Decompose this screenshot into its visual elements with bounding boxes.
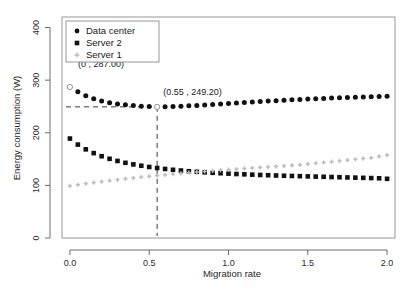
x-axis: 0.00.51.01.52.0 xyxy=(64,250,394,268)
data-point xyxy=(155,166,160,171)
data-point xyxy=(83,93,88,98)
data-point xyxy=(298,174,303,179)
x-axis-tick-label: 0.5 xyxy=(143,258,156,268)
data-point xyxy=(147,165,152,170)
data-point xyxy=(337,95,342,100)
data-point xyxy=(115,101,120,106)
data-point xyxy=(361,176,366,181)
data-point xyxy=(290,174,295,179)
data-point xyxy=(329,175,334,180)
data-point xyxy=(186,103,191,108)
data-point xyxy=(345,175,350,180)
data-point xyxy=(115,159,120,164)
data-point xyxy=(297,97,302,102)
data-point xyxy=(369,94,374,99)
energy-consumption-chart: 0.00.51.01.52.0 0100200300400 (0 , 287.0… xyxy=(0,0,416,290)
x-axis-tick-label: 2.0 xyxy=(381,258,394,268)
data-point xyxy=(282,173,287,178)
data-point xyxy=(163,104,168,109)
data-point xyxy=(369,176,374,181)
data-point xyxy=(274,173,279,178)
data-point xyxy=(131,162,136,167)
data-point xyxy=(250,172,255,177)
data-point xyxy=(202,102,207,107)
data-point xyxy=(194,103,199,108)
data-point xyxy=(385,94,390,99)
x-axis-tick-label: 1.0 xyxy=(222,258,235,268)
annotation-marker xyxy=(67,84,72,89)
data-point xyxy=(377,176,382,181)
legend-marker-square-icon xyxy=(75,41,80,46)
data-point xyxy=(337,175,342,180)
data-point xyxy=(361,94,366,99)
data-point xyxy=(123,161,128,166)
data-point xyxy=(76,142,81,147)
x-axis-tick-label: 1.5 xyxy=(302,258,315,268)
y-axis-title: Energy consumption (W) xyxy=(11,76,22,181)
x-axis-title: Migration rate xyxy=(203,268,261,279)
data-point xyxy=(131,103,136,108)
annotation-marker xyxy=(155,104,160,109)
data-point xyxy=(147,104,152,109)
legend-item-label: Server 2 xyxy=(86,37,122,48)
legend-item-label: Server 1 xyxy=(86,49,122,60)
x-axis-tick-label: 0.0 xyxy=(64,258,77,268)
series-data-center xyxy=(67,84,389,109)
data-point xyxy=(171,104,176,109)
data-point xyxy=(83,147,88,152)
chart-legend: Data centerServer 2Server 1 xyxy=(66,21,159,62)
data-point xyxy=(107,157,112,162)
data-point xyxy=(99,98,104,103)
reference-lines xyxy=(66,107,157,236)
data-point xyxy=(242,172,247,177)
y-axis-tick-label: 200 xyxy=(31,125,41,140)
legend-marker-circle-icon xyxy=(75,29,80,34)
data-point xyxy=(305,174,310,179)
data-point xyxy=(305,97,310,102)
data-point xyxy=(91,96,96,101)
y-axis-tick-label: 400 xyxy=(31,20,41,35)
data-point xyxy=(321,96,326,101)
data-point xyxy=(107,100,112,105)
data-point xyxy=(226,171,231,176)
data-point xyxy=(258,99,263,104)
data-point xyxy=(68,136,73,141)
data-series xyxy=(67,84,389,188)
data-point xyxy=(353,175,358,180)
series-server-2 xyxy=(68,136,390,181)
data-point xyxy=(218,101,223,106)
data-point xyxy=(289,97,294,102)
data-point xyxy=(226,101,231,106)
data-point xyxy=(139,104,144,109)
data-point xyxy=(266,99,271,104)
data-point xyxy=(139,163,144,168)
data-point xyxy=(163,167,168,172)
data-point xyxy=(282,98,287,103)
data-point xyxy=(385,177,390,182)
legend-item-label: Data center xyxy=(86,25,135,36)
data-point xyxy=(178,104,183,109)
point-annotations: (0 , 287.00)(0.55 , 249.20) xyxy=(67,59,221,109)
annotation-label: (0.55 , 249.20) xyxy=(163,87,222,97)
data-point xyxy=(345,95,350,100)
data-point xyxy=(258,173,263,178)
data-point xyxy=(171,168,176,173)
data-point xyxy=(210,102,215,107)
data-point xyxy=(329,96,334,101)
data-point xyxy=(274,98,279,103)
data-point xyxy=(123,102,128,107)
chart-canvas: 0.00.51.01.52.0 0100200300400 (0 , 287.0… xyxy=(0,0,416,290)
data-point xyxy=(234,100,239,105)
data-point xyxy=(250,100,255,105)
y-axis-tick-label: 0 xyxy=(31,235,41,240)
series-server-1 xyxy=(68,153,389,188)
data-point xyxy=(75,89,80,94)
data-point xyxy=(313,174,318,179)
data-point xyxy=(266,173,271,178)
y-axis: 0100200300400 xyxy=(31,20,50,240)
data-point xyxy=(321,175,326,180)
data-point xyxy=(242,100,247,105)
data-point xyxy=(234,172,239,177)
y-axis-tick-label: 300 xyxy=(31,73,41,88)
data-point xyxy=(353,95,358,100)
